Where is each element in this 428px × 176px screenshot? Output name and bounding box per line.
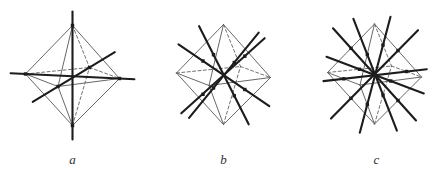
octahedron-edge-a	[58, 79, 120, 87]
axis-point-marker-b	[201, 93, 204, 96]
axis-point-marker-b	[233, 94, 236, 97]
axis-point-marker-c	[396, 99, 399, 102]
axis-point-marker-a	[118, 77, 121, 80]
subfigure-label-c: c	[374, 152, 380, 167]
axis-point-marker-c	[358, 68, 361, 71]
axis-point-marker-c	[366, 103, 369, 106]
axis-point-marker-b	[212, 86, 215, 89]
octahedron-hidden-edge-a	[73, 26, 90, 68]
axis-point-marker-c	[366, 53, 369, 56]
axis-point-marker-c	[405, 70, 408, 73]
axis-point-marker-c	[381, 43, 384, 46]
axis-point-marker-a	[24, 72, 27, 75]
octahedron-edge-b	[177, 73, 210, 86]
octahedron-edge-a	[73, 26, 120, 79]
axis-point-marker-c	[396, 49, 399, 52]
axis-point-marker-a	[71, 24, 74, 27]
axis-point-marker-c	[389, 79, 392, 82]
axis-point-marker-b	[201, 59, 204, 62]
axis-point-marker-c	[381, 93, 384, 96]
octahedron-edge-a	[58, 26, 73, 87]
octahedron-edge-a	[58, 87, 73, 126]
axis-point-marker-a	[88, 66, 91, 69]
axis-point-marker-b	[233, 61, 236, 64]
axis-point-marker-b	[243, 88, 246, 91]
axis-point-marker-a	[71, 124, 74, 127]
axis-point-marker-c	[349, 97, 352, 100]
figure-canvas: a b c	[0, 0, 428, 176]
symmetry-axis-b	[181, 38, 264, 113]
subfigure-label-b: b	[220, 152, 227, 167]
axis-point-marker-b	[243, 55, 246, 58]
octahedron-hidden-edge-b	[224, 25, 241, 67]
axis-point-marker-c	[349, 47, 352, 50]
axis-point-marker-b	[212, 53, 215, 56]
subfigure-label-a: a	[69, 152, 76, 167]
octahedron-edge-a	[26, 26, 73, 75]
axis-point-marker-a	[56, 85, 59, 88]
axis-point-marker-c	[342, 77, 345, 80]
octahedron-symmetry-diagram: a b c	[0, 0, 428, 176]
